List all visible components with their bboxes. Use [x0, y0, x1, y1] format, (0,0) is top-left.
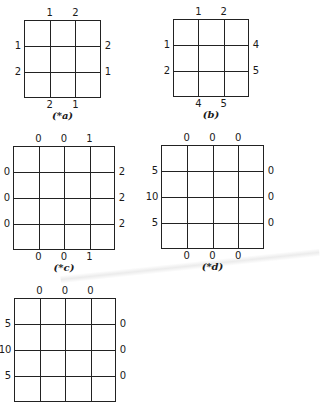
grid-horizontal-line: [174, 45, 248, 46]
grid-figure-d: [161, 145, 264, 249]
top-label: 0: [209, 133, 215, 143]
left-label: 0: [4, 193, 10, 203]
bottom-label: 0: [235, 251, 241, 261]
grid-horizontal-line: [162, 223, 263, 224]
top-label: 0: [184, 133, 190, 143]
grid-horizontal-line: [174, 71, 248, 72]
top-label: 1: [46, 8, 52, 18]
bottom-label: 0: [209, 251, 215, 261]
left-label: 2: [15, 67, 21, 77]
right-label: 0: [268, 218, 274, 228]
figure-caption: (*c): [54, 262, 75, 273]
left-label: 5: [5, 371, 11, 381]
grid-horizontal-line: [162, 171, 263, 172]
grid-figure-b: [173, 19, 249, 97]
grid-horizontal-line: [14, 172, 114, 173]
grid-horizontal-line: [25, 72, 100, 73]
bottom-label: 5: [220, 99, 226, 109]
grid-horizontal-line: [15, 350, 115, 351]
left-label: 5: [5, 319, 11, 329]
right-label: 0: [120, 319, 126, 329]
top-label: 0: [35, 134, 41, 144]
bottom-label: 0: [61, 252, 67, 262]
grid-horizontal-line: [14, 198, 114, 199]
bottom-label: 4: [195, 99, 201, 109]
right-label: 2: [105, 41, 111, 51]
grid-figure-e: [14, 298, 116, 402]
bottom-label: 0: [35, 252, 41, 262]
top-label: 0: [235, 133, 241, 143]
right-label: 2: [119, 219, 125, 229]
left-label: 10: [146, 192, 159, 202]
grid-vertical-line: [50, 21, 51, 97]
top-label: 0: [36, 286, 42, 296]
grid-vertical-line: [198, 20, 199, 96]
left-label: 2: [164, 66, 170, 76]
bottom-label: 1: [86, 252, 92, 262]
grid-figure-a: [24, 20, 101, 98]
grid-horizontal-line: [162, 197, 263, 198]
grid-horizontal-line: [15, 324, 115, 325]
grid-horizontal-line: [15, 376, 115, 377]
top-label: 0: [87, 286, 93, 296]
top-label: 0: [62, 286, 68, 296]
grid-figure-c: [13, 146, 115, 250]
top-label: 1: [195, 7, 201, 17]
grid-horizontal-line: [14, 224, 114, 225]
left-label: 1: [164, 40, 170, 50]
right-label: 2: [119, 167, 125, 177]
left-label: 5: [152, 166, 158, 176]
grid-vertical-line: [224, 20, 225, 96]
right-label: 2: [119, 193, 125, 203]
left-label: 1: [15, 41, 21, 51]
left-label: 5: [152, 218, 158, 228]
bottom-label: 1: [72, 100, 78, 110]
bottom-label: 0: [184, 251, 190, 261]
top-label: 1: [86, 134, 92, 144]
left-label: 0: [4, 219, 10, 229]
right-label: 1: [105, 67, 111, 77]
figure-caption: (b): [203, 109, 219, 120]
right-label: 4: [253, 40, 259, 50]
right-label: 0: [268, 192, 274, 202]
right-label: 0: [120, 371, 126, 381]
right-label: 5: [253, 66, 259, 76]
grid-horizontal-line: [25, 46, 100, 47]
right-label: 0: [120, 345, 126, 355]
grid-vertical-line: [75, 21, 76, 97]
top-label: 2: [72, 8, 78, 18]
page-crease-shadow: [60, 248, 319, 283]
top-label: 0: [61, 134, 67, 144]
figure-caption: (*a): [52, 110, 73, 121]
right-label: 0: [268, 166, 274, 176]
top-label: 2: [220, 7, 226, 17]
left-label: 0: [4, 167, 10, 177]
left-label: 10: [0, 345, 11, 355]
figure-caption: (*d): [202, 261, 224, 272]
bottom-label: 2: [46, 100, 52, 110]
